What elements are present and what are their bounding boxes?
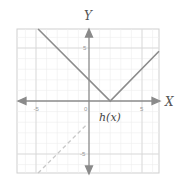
tick-y-neg5: -5 [80, 151, 86, 157]
chart: -5 0 5 5 -5 Y X h(x) [0, 0, 177, 177]
function-label: h(x) [99, 111, 121, 124]
y-axis-label: Y [84, 9, 93, 23]
x-axis-label: X [164, 95, 174, 109]
tick-x-neg5: -5 [34, 106, 40, 112]
